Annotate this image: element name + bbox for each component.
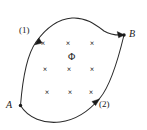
field-marker-cross: ×: [67, 66, 72, 74]
curve-path-2: [21, 35, 125, 122]
figure-canvas: [0, 0, 147, 130]
physics-figure: × × × × × × × × × Φ (1) (2) A B: [0, 0, 147, 130]
point-a-dot: [19, 104, 22, 107]
field-marker-cross: ×: [90, 40, 95, 48]
flux-symbol-label: Φ: [68, 52, 75, 62]
field-marker-cross: ×: [90, 66, 95, 74]
path-1-label: (1): [19, 26, 30, 35]
field-marker-cross: ×: [68, 89, 73, 97]
field-marker-cross: ×: [66, 40, 71, 48]
point-b-label: B: [129, 29, 135, 39]
field-marker-cross: ×: [43, 66, 48, 74]
point-a-label: A: [6, 100, 12, 110]
path-2-label: (2): [99, 100, 110, 109]
field-marker-cross: ×: [89, 89, 94, 97]
field-marker-cross: ×: [45, 89, 50, 97]
field-marker-cross: ×: [41, 40, 46, 48]
point-b-dot: [122, 33, 125, 36]
